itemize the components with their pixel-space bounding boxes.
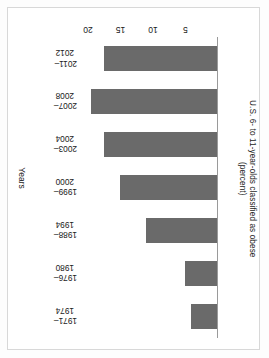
chart-figure: U.S. 6- to 11-year-olds classified as ob… xyxy=(0,0,269,358)
value-axis-title: U.S. 6- to 11-year-olds classified as ob… xyxy=(238,9,256,348)
value-axis-title-line2: (percent) xyxy=(238,162,247,196)
category-label: 1976–1980 xyxy=(39,263,77,283)
category-label-line1: 1976– xyxy=(54,274,77,284)
category-axis-labels: 1971–19741976–19801988–19941999–20002003… xyxy=(39,37,77,338)
category-label: 1988–1994 xyxy=(39,220,77,240)
category-label-line2: 2008 xyxy=(39,91,77,101)
bar-2007-2008 xyxy=(91,89,217,115)
bar-row xyxy=(75,89,217,115)
category-label-line2: 2004 xyxy=(39,134,77,144)
category-label-line1: 2011– xyxy=(55,59,77,69)
value-axis-title-line1: U.S. 6- to 11-year-olds classified as ob… xyxy=(248,100,257,258)
bar-row xyxy=(75,46,217,72)
bar-row xyxy=(75,261,217,287)
category-label: 2007–2008 xyxy=(39,91,77,111)
category-label-line2: 1974 xyxy=(39,306,77,316)
bar-1999-2000 xyxy=(120,175,217,201)
category-label-line2: 1994 xyxy=(39,220,77,230)
category-label-line2: 2012 xyxy=(39,48,77,58)
bar-row xyxy=(75,175,217,201)
bar-row xyxy=(75,218,217,244)
category-label-line1: 2003– xyxy=(54,145,77,155)
value-tick-label: 20 xyxy=(83,25,92,35)
bar-1971-1974 xyxy=(191,304,217,330)
value-tick-label: 10 xyxy=(148,25,157,35)
bar-row xyxy=(75,304,217,330)
rotated-chart-container: U.S. 6- to 11-year-olds classified as ob… xyxy=(9,9,258,348)
bar-2003-2004 xyxy=(104,132,217,158)
value-tick-label: 5 xyxy=(183,25,188,35)
bar-1988-1994 xyxy=(146,218,217,244)
category-label-line2: 1980 xyxy=(39,263,77,273)
plot-area xyxy=(75,37,218,338)
category-axis-title: Years xyxy=(11,9,33,348)
value-axis-ticks: 5101520 xyxy=(75,21,218,35)
category-label-line1: 1988– xyxy=(54,231,77,241)
category-label-line1: 1999– xyxy=(54,188,77,198)
bar-chart: U.S. 6- to 11-year-olds classified as ob… xyxy=(9,9,258,348)
category-label: 1999–2000 xyxy=(39,177,77,197)
value-tick-label: 15 xyxy=(116,25,125,35)
bar-row xyxy=(75,132,217,158)
category-label-line2: 2000 xyxy=(39,177,77,187)
bar-2011-2012 xyxy=(104,46,217,72)
category-label-line1: 1971– xyxy=(54,317,77,327)
category-label: 2011–2012 xyxy=(39,48,77,68)
category-label: 1971–1974 xyxy=(39,306,77,326)
bar-1976-1980 xyxy=(185,261,217,287)
category-label: 2003–2004 xyxy=(39,134,77,154)
category-label-line1: 2007– xyxy=(54,102,77,112)
